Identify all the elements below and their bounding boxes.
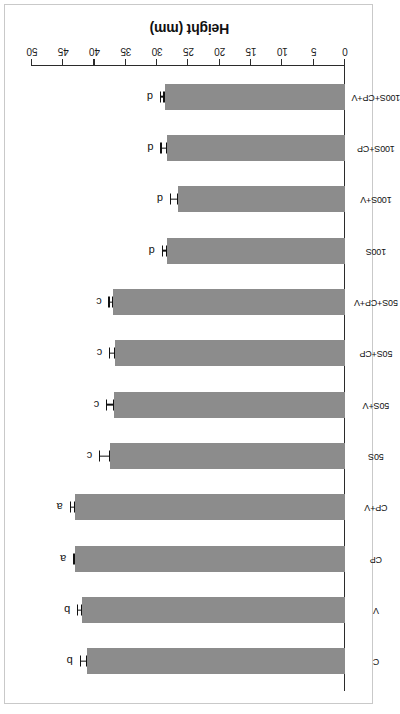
bar-50s-plus-cp: [115, 340, 345, 366]
bar-cp: [75, 546, 345, 572]
bar-50s-plus-cp-plus-v: [113, 289, 345, 315]
bar-50s: [110, 443, 345, 469]
error-bar-cap-inner: [112, 297, 113, 308]
error-bar-cap-inner: [113, 399, 114, 410]
error-bar-cap-inner: [163, 91, 164, 102]
error-bar-cap: [108, 297, 109, 308]
bar-row: aCP+V: [32, 494, 345, 520]
error-bar-cap: [70, 502, 71, 513]
error-bar-cap: [80, 656, 81, 667]
significance-letter: c: [94, 399, 100, 411]
significance-letter: d: [149, 245, 155, 257]
tick-mark: [62, 59, 63, 65]
bar-100s-plus-v: [178, 186, 345, 212]
bar-c: [87, 648, 345, 674]
tick-mark: [187, 59, 188, 65]
tick-label: 0: [332, 46, 358, 57]
category-label-text: 50S+CP+V: [354, 298, 398, 308]
error-bar-cap: [109, 348, 110, 359]
category-label-text: 100S+V: [360, 195, 391, 205]
error-bar-cap: [160, 143, 161, 154]
tick-mark: [125, 59, 126, 65]
error-bar-cap-inner: [81, 605, 82, 616]
bar-row: d100S+CP+V: [32, 84, 345, 110]
error-bar-cap: [106, 399, 107, 410]
bar-row: bC: [32, 648, 345, 674]
error-bar-cap-inner: [166, 143, 167, 154]
tick-mark: [250, 59, 251, 65]
bar-row: c50S+CP+V: [32, 289, 345, 315]
error-bar-cap: [160, 91, 161, 102]
bar-row: c50S+CP: [32, 340, 345, 366]
bar-100s: [167, 238, 345, 264]
tick-mark: [219, 59, 220, 65]
bar-v: [82, 597, 345, 623]
error-bar-cap-inner: [74, 502, 75, 513]
significance-letter: a: [60, 553, 66, 565]
tick-label: 15: [238, 46, 264, 57]
bar-chart: 05101520253035404550 bCbVaCPaCP+Vc50Sc50…: [5, 5, 374, 705]
tick-label: 30: [144, 46, 170, 57]
bar-row: d100S: [32, 238, 345, 264]
error-bar-cap: [162, 245, 163, 256]
category-label-text: 100S: [366, 247, 386, 257]
tick-label: 5: [301, 46, 327, 57]
tick-mark: [281, 59, 282, 65]
bar-row: d100S+CP: [32, 135, 345, 161]
significance-letter: a: [57, 501, 63, 513]
tick-label: 45: [50, 46, 76, 57]
significance-letter: d: [147, 142, 153, 154]
significance-letter: d: [147, 91, 153, 103]
significance-letter: b: [67, 655, 73, 667]
significance-letter: c: [87, 450, 93, 462]
tick-label: 35: [113, 46, 139, 57]
significance-letter: c: [97, 347, 103, 359]
figure-frame: 05101520253035404550 bCbVaCPaCP+Vc50Sc50…: [4, 4, 373, 704]
significance-letter: d: [157, 193, 163, 205]
tick-label: 50: [19, 46, 45, 57]
category-label-text: 100S+CP+V: [352, 93, 400, 103]
bar-row: d100S+V: [32, 186, 345, 212]
bar-50s-plus-v: [114, 392, 345, 418]
bar-row: c50S: [32, 443, 345, 469]
chart-rotated-container: 05101520253035404550 bCbVaCPaCP+Vc50Sc50…: [5, 5, 374, 705]
tick-mark: [156, 59, 157, 65]
category-label-text: 50S+V: [363, 401, 390, 411]
tick-mark: [344, 59, 345, 65]
error-bar-cap-inner: [114, 348, 115, 359]
tick-mark: [93, 59, 94, 65]
category-label-text: C: [373, 657, 379, 667]
error-bar-cap: [99, 451, 100, 462]
tick-label: 10: [269, 46, 295, 57]
tick-mark: [313, 59, 314, 65]
significance-letter: b: [64, 604, 70, 616]
category-label-text: 50S+CP: [360, 349, 393, 359]
bar-cp-plus-v: [75, 494, 345, 520]
error-bar-cap-inner: [109, 451, 110, 462]
error-bar-cap: [170, 194, 171, 205]
error-bar-cap-inner: [166, 245, 167, 256]
value-axis-title: Height (mm): [5, 21, 374, 37]
error-bar-cap-inner: [74, 553, 75, 564]
bar-row: c50S+V: [32, 392, 345, 418]
error-bar-cap-inner: [177, 194, 178, 205]
tick-label: 40: [82, 46, 108, 57]
bar-row: bV: [32, 597, 345, 623]
category-label-text: 50S: [368, 452, 384, 462]
bar-100s-plus-cp-plus-v: [165, 84, 345, 110]
tick-mark: [31, 59, 32, 65]
bar-row: aCP: [32, 546, 345, 572]
category-label-text: CP: [370, 555, 382, 565]
category-label-text: CP+V: [364, 503, 387, 513]
tick-label: 25: [176, 46, 202, 57]
category-label-text: V: [373, 606, 379, 616]
tick-label: 20: [207, 46, 233, 57]
error-bar-cap-inner: [86, 656, 87, 667]
bar-100s-plus-cp: [167, 135, 345, 161]
error-bar-cap: [77, 605, 78, 616]
significance-letter: c: [96, 296, 102, 308]
category-label-text: 100S+CP: [357, 144, 395, 154]
